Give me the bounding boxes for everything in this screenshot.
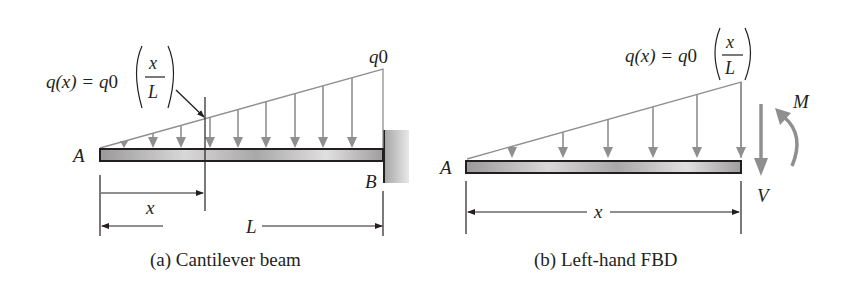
moment-arrow [775, 108, 797, 166]
point-a-label: A [71, 145, 85, 166]
dimension-lines-a [100, 175, 383, 236]
leader-arrow [176, 90, 204, 117]
dim-x-label: x [145, 197, 155, 218]
dim-l-label: L [245, 216, 257, 237]
point-b-label: B [365, 171, 377, 192]
figure-a-cantilever: q(x) = q0 x L q0 A B x L (a) Cantilever … [46, 46, 409, 271]
fraction-numerator-b: x [725, 32, 734, 52]
fraction-denominator-b: L [724, 58, 735, 78]
dimension-lines-b [466, 181, 741, 234]
beam-a [100, 149, 383, 161]
caption-a: (a) Cantilever beam [150, 249, 301, 271]
dim-x-label-b: x [593, 201, 603, 222]
load-equation-a: q(x) = q0 [46, 71, 118, 93]
caption-b: (b) Left-hand FBD [534, 249, 678, 271]
beam-b [466, 161, 741, 173]
shear-label: V [757, 185, 771, 206]
moment-label: M [792, 91, 810, 112]
distributed-load-a [100, 69, 383, 148]
shear-force-arrow [754, 104, 768, 176]
fixed-wall [384, 130, 409, 183]
point-a-label-b: A [438, 157, 452, 178]
load-equation-b: q(x) = q0 [625, 45, 697, 67]
end-load-label: q0 [369, 46, 388, 67]
distributed-load-b [467, 82, 746, 159]
fraction-denominator: L [147, 82, 158, 102]
fraction-numerator: x [148, 53, 157, 73]
figure-b-fbd: q(x) = q0 x L A M V x (b) Left-hand FBD [438, 28, 810, 271]
beam-diagram: q(x) = q0 x L q0 A B x L (a) Cantilever … [0, 0, 860, 287]
